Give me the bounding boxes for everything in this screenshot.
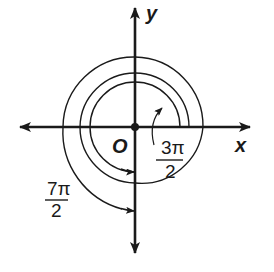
origin-point: [131, 123, 139, 131]
angle-3pi-over-2-numerator: 3π: [161, 137, 185, 158]
angle-7pi-over-2-denominator: 2: [51, 200, 62, 221]
arc-7pi-over-2: [63, 57, 203, 209]
angle-3pi-over-2-denominator: 2: [165, 161, 176, 182]
y-axis-label: y: [145, 2, 158, 24]
x-axis-label: x: [234, 134, 247, 156]
angle-7pi-over-2-numerator: 7π: [47, 178, 71, 199]
origin-label: O: [112, 135, 128, 157]
angle-diagram: y x O 3π 2 7π 2: [0, 0, 274, 272]
arc-3pi-over-2-arrowhead: [121, 169, 134, 172]
arc-7pi-over-2-arrowhead: [121, 209, 134, 212]
